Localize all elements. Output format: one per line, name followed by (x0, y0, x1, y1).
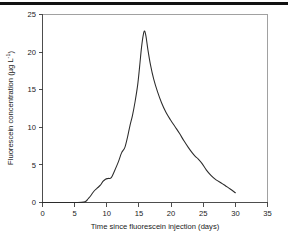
x-tick-label: 30 (231, 209, 239, 218)
line-chart: 0 5 10 15 20 25 0 5 10 15 20 25 30 35 Ti… (0, 0, 288, 237)
y-tick-labels: 0 5 10 15 20 25 (28, 10, 36, 207)
y-tick-marks (39, 15, 43, 203)
x-tick-label: 15 (135, 209, 143, 218)
y-tick-label: 0 (32, 198, 36, 207)
x-tick-label: 20 (167, 209, 175, 218)
x-tick-marks (43, 203, 268, 207)
x-tick-label: 5 (72, 209, 76, 218)
x-tick-label: 25 (199, 209, 207, 218)
plot-frame-top-right (43, 15, 268, 203)
x-tick-label: 0 (40, 209, 44, 218)
x-tick-label: 10 (103, 209, 111, 218)
x-tick-labels: 0 5 10 15 20 25 30 35 (40, 209, 271, 218)
y-axis-title-main: Fluorescein concentration (µg L (6, 58, 15, 165)
y-axis-title: Fluorescein concentration (µg L-1) (5, 51, 15, 165)
fluorescein-concentration-curve (43, 31, 236, 203)
y-tick-label: 20 (28, 48, 36, 57)
y-axis-title-tail: ) (6, 51, 15, 54)
x-tick-label: 35 (263, 209, 271, 218)
x-axis-title: Time since fluorescein injection (days) (91, 222, 220, 231)
y-tick-label: 5 (32, 161, 36, 170)
figure-container: 0 5 10 15 20 25 0 5 10 15 20 25 30 35 Ti… (0, 0, 288, 237)
y-tick-label: 15 (28, 85, 36, 94)
y-tick-label: 10 (28, 123, 36, 132)
y-tick-label: 25 (28, 10, 36, 19)
